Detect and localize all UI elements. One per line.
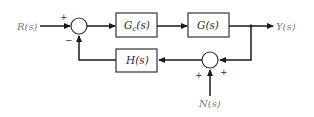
plant-block: G(s) [188,13,229,37]
svg-text:G(s): G(s) [197,19,219,31]
controller-block: Gc(s) [116,13,157,37]
sum2-plus-sign-feedback: + [220,67,228,77]
summing-junction-1 [71,18,87,34]
svg-text:H(s): H(s) [125,54,149,66]
feedback-block: H(s) [116,49,157,72]
sum2-plus-sign-noise: + [195,70,203,80]
input-label: R(s) [16,21,38,32]
sum1-plus-sign: + [60,12,68,22]
block-diagram: R(s) + − Gc(s) G(s) Y(s) + + N(s) H(s) [0,0,314,117]
sum1-minus-sign: − [65,35,73,45]
noise-label: N(s) [198,98,221,109]
output-label: Y(s) [276,21,296,32]
svg-text:Gc(s): Gc(s) [124,19,150,33]
summing-junction-2 [202,52,218,68]
feedback-to-sum1-path [79,36,116,60]
